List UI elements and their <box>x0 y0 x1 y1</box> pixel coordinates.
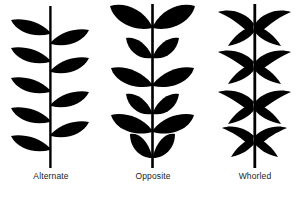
whorl1-leaf-right-down <box>255 26 281 46</box>
whorl1-leaf-left-down <box>228 26 254 46</box>
label-alternate: Alternate <box>33 171 68 181</box>
leaf-left-3 <box>11 77 50 93</box>
whorl3-leaf-left-down <box>228 104 254 124</box>
leaf-pair2-left <box>126 38 152 59</box>
leaf-left-4 <box>11 107 50 123</box>
alternate-plant-silhouette <box>1 0 101 168</box>
alternate-stem <box>49 6 51 168</box>
opposite-plant-silhouette <box>103 0 203 168</box>
leaf-pair2-right <box>153 38 179 59</box>
leaf-right-1 <box>51 29 89 45</box>
leaf-right-3 <box>51 91 89 107</box>
leaf-pair6-left <box>130 134 152 158</box>
leaf-pair5-left <box>111 114 152 133</box>
leaf-pair1-left <box>110 5 152 29</box>
leaf-pair3-left <box>111 67 152 87</box>
leaf-right-2 <box>51 57 89 73</box>
leaf-arrangement-figure: Alternate <box>0 0 306 202</box>
leaf-pair5-right <box>153 114 194 133</box>
whorled-plant-silhouette <box>205 0 305 168</box>
label-opposite: Opposite <box>135 171 170 181</box>
leaf-pair4-right <box>153 94 179 115</box>
leaf-left-5 <box>11 135 50 151</box>
leaf-pair4-left <box>126 94 152 115</box>
whorl4-leaf-left-down <box>231 138 254 157</box>
pattern-whorled: Whorled <box>204 0 306 202</box>
leaf-pair1-right <box>153 5 195 29</box>
whorl2-leaf-right-down <box>255 64 281 84</box>
whorl2-leaf-left-down <box>228 64 254 84</box>
pattern-row: Alternate <box>0 0 306 202</box>
leaf-pair3-right <box>153 67 194 87</box>
whorl3-leaf-right-down <box>255 104 281 124</box>
whorl4-leaf-right-down <box>255 138 278 157</box>
leaf-pair6-right <box>153 134 175 158</box>
pattern-opposite: Opposite <box>102 0 204 202</box>
leaf-right-4 <box>51 121 89 137</box>
pattern-alternate: Alternate <box>0 0 102 202</box>
leaf-left-1 <box>11 19 50 35</box>
label-whorled: Whorled <box>239 171 272 181</box>
leaf-left-2 <box>11 47 50 63</box>
